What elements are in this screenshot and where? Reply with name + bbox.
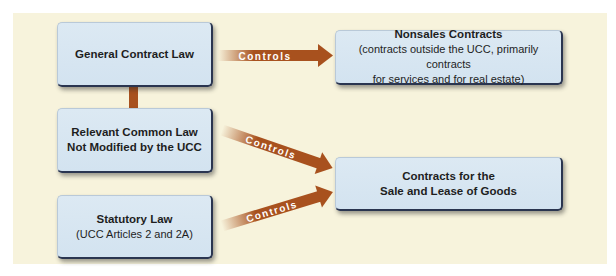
arrow-general-to-nonsales: Controls [218,44,333,67]
box-statutory-law: Statutory Law (UCC Articles 2 and 2A) [57,195,213,259]
arrow-label: Controls [244,134,298,162]
box-relevant-common-law: Relevant Common Law Not Modified by the … [57,108,213,173]
arrow-label: Controls [238,51,291,62]
box-sale-lease-goods: Contracts for the Sale and Lease of Good… [335,157,563,211]
box-nonsales-contracts: Nonsales Contracts (contracts outside th… [335,30,563,85]
box-subtitle: for services and for real estate) [373,72,525,87]
box-title: Relevant Common Law [71,125,198,140]
box-title: Sale and Lease of Goods [380,184,517,199]
arrow-common-law-to-goods: Controls [218,119,336,179]
box-title: General Contract Law [75,47,194,62]
box-title: Contracts for the [402,169,495,184]
arrow-statutory-to-goods: Controls [219,181,337,237]
box-general-contract-law: General Contract Law [57,22,213,87]
box-subtitle: (contracts outside the UCC, primarily co… [336,42,561,72]
box-title: Nonsales Contracts [394,27,502,42]
arrow-label: Controls [245,198,299,224]
box-subtitle: (UCC Articles 2 and 2A) [76,227,193,242]
box-title: Not Modified by the UCC [67,140,202,155]
box-title: Statutory Law [96,212,172,227]
